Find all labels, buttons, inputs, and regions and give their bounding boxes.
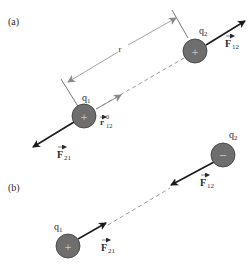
svg-text:F: F xyxy=(101,242,107,253)
panel-b-label: (b) xyxy=(8,182,20,194)
charge-q2: + xyxy=(183,39,207,63)
svg-text:F: F xyxy=(57,149,63,160)
svg-text:12: 12 xyxy=(232,43,240,51)
charge-q1-label: q1 xyxy=(54,221,63,234)
panel-a-label: (a) xyxy=(8,16,19,28)
separation-dashed-line xyxy=(108,188,170,225)
force-f12-label: F 12 xyxy=(200,175,215,190)
distance-label-r: r xyxy=(119,44,122,54)
force-f21-arrow xyxy=(78,223,106,239)
charge-sign-minus: − xyxy=(219,150,227,161)
svg-text:0: 0 xyxy=(106,113,109,120)
force-f21-label: F 21 xyxy=(101,240,116,255)
charge-sign-plus: + xyxy=(191,47,199,57)
svg-text:F: F xyxy=(225,38,231,49)
charge-q1: + xyxy=(56,234,80,258)
coulomb-force-diagram: (a) r + q1 + q2 r 0 12 xyxy=(0,0,251,280)
svg-text:12: 12 xyxy=(106,122,113,129)
charge-q2: − xyxy=(211,143,235,167)
charge-q2-label: q2 xyxy=(199,25,208,38)
svg-text:r: r xyxy=(100,117,104,127)
force-f21-arrow xyxy=(33,122,74,147)
panel-a: (a) r + q1 + q2 r 0 12 xyxy=(8,10,245,162)
svg-text:F: F xyxy=(200,177,206,188)
svg-text:12: 12 xyxy=(207,182,215,190)
unit-vector-label: r 0 12 xyxy=(100,113,113,129)
dimension-tick-right xyxy=(172,10,188,38)
svg-text:21: 21 xyxy=(108,247,116,255)
charge-q1-label: q1 xyxy=(82,92,91,105)
unit-vector-arrow xyxy=(96,95,121,109)
force-f21-label: F 21 xyxy=(57,147,72,162)
panel-b: (b) − q2 + q1 F 12 F 21 xyxy=(8,129,238,258)
charge-sign-plus: + xyxy=(80,112,88,122)
svg-text:21: 21 xyxy=(64,154,72,162)
charge-q2-label: q2 xyxy=(229,129,238,142)
force-f12-label: F 12 xyxy=(225,36,240,51)
charge-sign-plus: + xyxy=(64,242,72,252)
dimension-arrow-left xyxy=(68,52,118,82)
dimension-arrow-right xyxy=(128,18,176,45)
charge-q1: + xyxy=(72,104,96,128)
